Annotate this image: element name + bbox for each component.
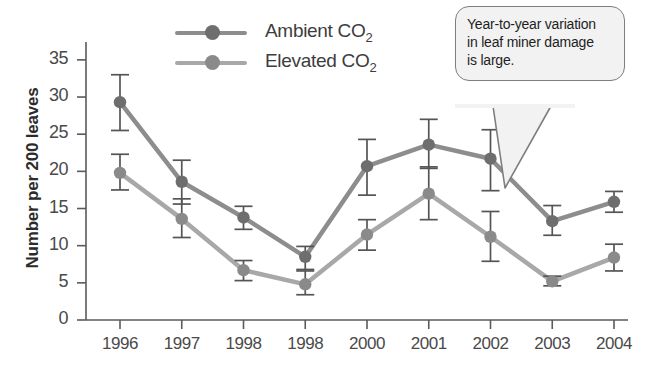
data-point <box>608 196 620 208</box>
x-tick-label: 2001 <box>399 334 459 354</box>
data-point <box>237 264 249 276</box>
y-tick-label: 25 <box>28 122 68 143</box>
callout-line-2: in leaf miner damage <box>467 34 613 52</box>
data-point <box>361 228 373 240</box>
x-tick-label: 1997 <box>152 334 212 354</box>
data-point <box>176 176 188 188</box>
x-tick-label: 2002 <box>461 334 521 354</box>
chart-figure: Number per 200 leaves Ambient CO2 Elevat… <box>0 0 651 379</box>
data-point <box>423 138 435 150</box>
x-tick-label: 1998 <box>214 334 274 354</box>
legend-label-ambient: Ambient CO2 <box>265 20 372 45</box>
data-point <box>546 275 558 287</box>
x-tick-label: 2004 <box>584 334 644 354</box>
y-tick-label: 20 <box>28 159 68 180</box>
legend-label-elevated-sub: 2 <box>369 60 376 75</box>
x-tick-label: 1996 <box>90 334 150 354</box>
legend-label-elevated: Elevated CO2 <box>265 50 376 75</box>
callout-annotation: Year-to-year variation in leaf miner dam… <box>455 6 625 81</box>
data-point <box>299 251 311 263</box>
legend-label-ambient-text: Ambient CO <box>265 20 365 41</box>
callout-line-3: is large. <box>467 52 613 70</box>
y-tick-label: 30 <box>28 85 68 106</box>
legend-label-elevated-text: Elevated CO <box>265 50 369 71</box>
x-tick-label: 1998 <box>275 334 335 354</box>
data-point <box>608 251 620 263</box>
data-point <box>299 278 311 290</box>
data-point <box>176 213 188 225</box>
legend-label-ambient-sub: 2 <box>365 30 372 45</box>
x-tick-label: 2000 <box>337 334 397 354</box>
callout-line-1: Year-to-year variation <box>467 16 613 34</box>
legend-marker-elevated <box>205 55 220 70</box>
data-point <box>484 231 496 243</box>
data-point <box>114 96 126 108</box>
y-tick-label: 15 <box>28 197 68 218</box>
callout-tail <box>455 104 575 194</box>
data-point <box>114 167 126 179</box>
data-point <box>237 211 249 223</box>
y-tick-label: 35 <box>28 48 68 69</box>
data-point <box>423 187 435 199</box>
y-tick-label: 5 <box>28 271 68 292</box>
x-tick-label: 2003 <box>522 334 582 354</box>
y-tick-label: 10 <box>28 234 68 255</box>
y-tick-label: 0 <box>28 308 68 329</box>
data-point <box>546 215 558 227</box>
legend-marker-ambient <box>205 25 220 40</box>
data-point <box>361 160 373 172</box>
